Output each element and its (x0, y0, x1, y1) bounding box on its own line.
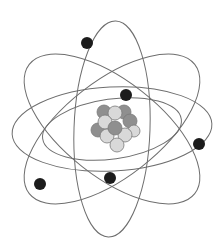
electron (193, 138, 205, 150)
electron (81, 37, 93, 49)
atom-diagram (0, 0, 224, 249)
neutron-particle (110, 138, 124, 152)
atomic-nucleus (91, 105, 140, 152)
electron (34, 178, 46, 190)
electron (120, 89, 132, 101)
proton-particle (108, 121, 122, 135)
electron (104, 172, 116, 184)
